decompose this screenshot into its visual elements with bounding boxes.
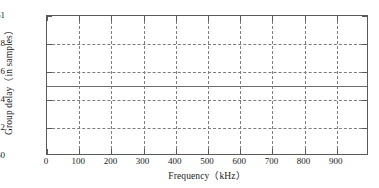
- x-axis-tick: [176, 149, 177, 154]
- y-axis-tick-label: 60: [0, 151, 5, 160]
- x-axis-tick: [79, 16, 80, 21]
- gridline-horizontal: [47, 44, 367, 45]
- y-axis-tick: [362, 128, 367, 129]
- x-axis-tick: [240, 149, 241, 154]
- y-axis-tick: [47, 44, 52, 45]
- y-axis-tick-label: 60.4: [0, 95, 5, 104]
- x-axis-tick: [144, 149, 145, 154]
- y-axis-tick: [362, 44, 367, 45]
- x-axis-tick: [176, 16, 177, 21]
- gridline-vertical: [79, 16, 80, 154]
- gridline-vertical: [240, 16, 241, 154]
- gridline-vertical: [176, 16, 177, 154]
- x-axis-tick: [240, 16, 241, 21]
- gridline-vertical: [337, 16, 338, 154]
- data-series-line: [47, 86, 367, 87]
- x-axis-tick: [305, 16, 306, 21]
- gridline-vertical: [111, 16, 112, 154]
- x-axis-tick: [272, 16, 273, 21]
- y-axis-tick-label: 61: [0, 11, 5, 20]
- gridline-horizontal: [47, 128, 367, 129]
- y-axis-tick: [47, 128, 52, 129]
- x-axis-tick: [337, 16, 338, 21]
- gridline-horizontal: [47, 100, 367, 101]
- x-axis-tick: [208, 16, 209, 21]
- y-axis-tick: [47, 72, 52, 73]
- gridline-vertical: [144, 16, 145, 154]
- gridline-vertical: [272, 16, 273, 154]
- x-axis-tick: [337, 149, 338, 154]
- y-axis-tick: [362, 72, 367, 73]
- x-axis-label: Frequency（kHz）: [46, 168, 368, 182]
- x-axis-tick: [305, 149, 306, 154]
- y-axis-label: Group delay（in samples）: [0, 0, 16, 160]
- gridline-horizontal: [47, 72, 367, 73]
- plot-area: [46, 15, 368, 155]
- x-axis-tick: [144, 16, 145, 21]
- y-axis-tick: [47, 100, 52, 101]
- y-axis-tick-label: 60.2: [0, 123, 5, 132]
- x-axis-tick: [111, 16, 112, 21]
- y-axis-tick: [362, 16, 367, 17]
- y-axis-tick: [362, 100, 367, 101]
- gridline-vertical: [208, 16, 209, 154]
- x-axis-tick: [79, 149, 80, 154]
- y-axis-tick-label: 60.6: [0, 67, 5, 76]
- x-axis-tick-label: 900: [316, 157, 356, 166]
- x-axis-tick: [47, 149, 48, 154]
- x-axis-tick: [208, 149, 209, 154]
- x-axis-tick: [47, 16, 48, 21]
- x-axis-tick: [111, 149, 112, 154]
- y-axis-tick-label: 60.8: [0, 39, 5, 48]
- group-delay-chart: Group delay（in samples） Frequency（kHz） 6…: [0, 0, 379, 188]
- x-axis-tick: [272, 149, 273, 154]
- gridline-vertical: [305, 16, 306, 154]
